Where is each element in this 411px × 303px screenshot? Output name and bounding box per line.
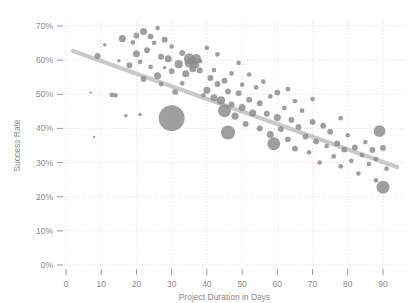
data-point	[369, 147, 375, 153]
data-point	[320, 123, 326, 129]
data-point	[175, 60, 183, 68]
data-point	[257, 125, 263, 131]
data-point	[246, 97, 252, 103]
data-point	[197, 59, 202, 64]
data-point	[374, 178, 379, 183]
data-point	[264, 111, 270, 117]
data-point	[182, 70, 189, 77]
data-point	[218, 104, 231, 117]
data-point	[201, 93, 206, 98]
data-point	[236, 61, 241, 66]
data-point	[261, 79, 266, 84]
data-point	[274, 90, 280, 96]
data-point	[338, 164, 343, 169]
data-point	[307, 150, 312, 155]
data-point	[377, 181, 390, 194]
data-point	[324, 144, 329, 149]
data-point	[282, 106, 287, 111]
data-point	[286, 87, 291, 92]
data-point	[203, 87, 210, 94]
data-point	[352, 145, 358, 151]
data-point	[285, 136, 291, 142]
xtick-label: 70	[308, 279, 318, 289]
data-point	[310, 97, 315, 102]
xtick-label: 0	[64, 279, 69, 289]
data-point	[317, 160, 322, 165]
data-point	[179, 50, 185, 56]
data-point	[207, 75, 213, 81]
data-point	[210, 94, 217, 101]
xtick-label: 20	[132, 279, 142, 289]
data-point	[222, 78, 228, 84]
data-point	[334, 141, 340, 147]
data-point	[363, 140, 368, 145]
data-point	[243, 121, 249, 127]
data-point	[303, 134, 309, 140]
ytick-label: 10%	[36, 226, 53, 236]
data-point	[215, 52, 220, 57]
data-point	[197, 67, 203, 73]
data-point	[148, 34, 154, 40]
data-points-group	[89, 26, 389, 194]
xtick-label: 60	[273, 279, 283, 289]
data-point	[159, 105, 185, 131]
data-point	[374, 157, 379, 162]
data-point	[158, 54, 164, 60]
y-axis-title: Success Rate	[12, 119, 22, 172]
data-point	[212, 68, 217, 73]
data-point	[163, 66, 167, 70]
data-point	[380, 145, 386, 151]
data-point	[113, 93, 118, 98]
data-point	[327, 129, 333, 135]
trendline	[73, 51, 397, 167]
data-point	[274, 114, 281, 121]
data-point	[138, 60, 143, 65]
data-point	[133, 50, 140, 57]
data-point	[367, 162, 372, 167]
data-point	[155, 26, 160, 31]
data-point	[103, 43, 107, 47]
data-point	[278, 126, 284, 132]
data-point	[293, 99, 298, 104]
data-point	[345, 133, 350, 138]
xtick-label: 80	[343, 279, 353, 289]
xtick-label: 30	[167, 279, 177, 289]
data-point	[159, 82, 164, 87]
data-point	[117, 59, 121, 63]
scatter-chart: 0%10%20%30%40%50%60%70%01020304050607080…	[0, 0, 411, 303]
data-point	[169, 44, 174, 49]
data-point	[300, 108, 305, 113]
data-point	[267, 137, 280, 150]
data-point	[229, 71, 234, 76]
ytick-label: 30%	[36, 158, 53, 168]
xtick-label: 90	[378, 279, 388, 289]
data-point	[134, 33, 140, 39]
ytick-label: 50%	[36, 89, 53, 99]
data-point	[288, 117, 294, 123]
data-point	[180, 81, 185, 86]
data-point	[341, 147, 347, 153]
data-point	[144, 47, 150, 53]
xtick-label: 10	[96, 279, 106, 289]
data-point	[292, 146, 298, 152]
data-point	[89, 91, 91, 93]
data-point	[124, 114, 128, 118]
data-point	[349, 159, 354, 164]
data-point	[148, 65, 153, 70]
data-point	[95, 53, 101, 59]
data-point	[331, 154, 336, 159]
data-point	[247, 72, 252, 77]
data-point	[232, 113, 239, 120]
data-point	[154, 72, 161, 79]
ytick-label: 0%	[41, 260, 54, 270]
ytick-label: 40%	[36, 123, 53, 133]
data-point	[205, 46, 210, 51]
data-point	[93, 136, 95, 138]
data-point	[152, 40, 157, 45]
ytick-label: 20%	[36, 192, 53, 202]
x-axis-title: Project Duration in Days	[179, 292, 271, 302]
ytick-label: 60%	[36, 55, 53, 65]
data-point	[162, 37, 168, 43]
data-point	[165, 55, 172, 62]
data-point	[374, 125, 386, 137]
